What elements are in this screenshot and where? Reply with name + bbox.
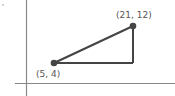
stray-dot [2,4,4,6]
coordinate-diagram: (5, 4) (21, 12) [0,0,175,96]
point-b [130,23,137,30]
hypotenuse-line [54,26,133,63]
point-b-label: (21, 12) [116,10,152,20]
point-a [51,60,58,67]
point-a-label: (5, 4) [36,69,60,79]
